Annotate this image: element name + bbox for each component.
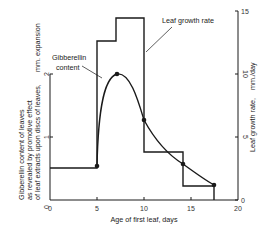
x-tick-10: 10 xyxy=(140,205,148,212)
annotation-leader-line xyxy=(82,66,102,78)
gibberellin-markers xyxy=(95,72,217,188)
annotation-gibberellin-line1: Gibberellin xyxy=(52,53,86,62)
x-axis-title: Age of first leaf, days xyxy=(110,215,178,224)
data-point-marker xyxy=(142,118,147,123)
left-tick-1: 1 xyxy=(43,135,50,139)
left-axis-title-line3: of leaf extracts upon discs of leaves, xyxy=(33,84,42,200)
right-axis-units: mm./day xyxy=(248,62,257,90)
right-tick-15: 15 xyxy=(241,8,249,15)
annotation-gibberellin: Gibberellin content xyxy=(52,53,102,78)
x-tick-labels: 0 5 10 15 20 xyxy=(48,205,242,212)
annotation-leader-line xyxy=(146,27,172,52)
chart-canvas: 0 5 10 15 20 0 1 2 0 5 10 15 Age of firs… xyxy=(0,0,273,231)
x-tick-5: 5 xyxy=(95,205,99,212)
annotation-gibberellin-line2: content xyxy=(56,63,80,72)
data-point-marker xyxy=(181,162,186,167)
data-point-marker xyxy=(115,72,120,77)
gibberellin-content-curve xyxy=(97,74,214,185)
data-point-marker xyxy=(95,164,100,169)
x-tick-20: 20 xyxy=(234,205,242,212)
left-tick-labels: 0 1 2 xyxy=(43,72,50,209)
right-axis-title-text: Leaf growth rate, xyxy=(248,98,257,152)
annotation-leaf-growth-rate: Leaf growth rate xyxy=(146,16,214,52)
right-axis-title: Leaf growth rate, mm./day xyxy=(248,62,257,152)
left-axis-title: Gibberellin content of leaves as reveale… xyxy=(17,23,42,200)
x-tick-15: 15 xyxy=(187,205,195,212)
left-tick-2: 2 xyxy=(43,72,50,76)
left-axis-units: mm. expansion xyxy=(33,23,42,72)
annotation-leaf-growth-rate-text: Leaf growth rate xyxy=(162,16,214,25)
right-tick-0: 0 xyxy=(241,197,245,204)
left-tick-0: 0 xyxy=(43,205,50,209)
leaf-growth-rate-step-line xyxy=(50,18,214,200)
data-point-marker xyxy=(212,183,217,188)
